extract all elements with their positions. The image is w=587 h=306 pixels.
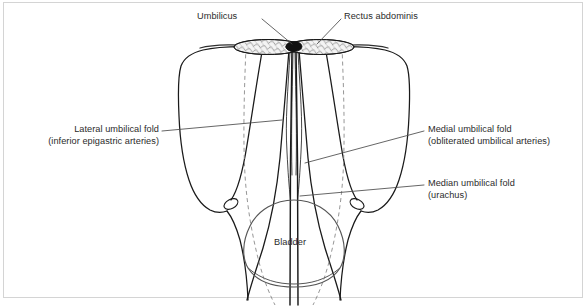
label-medial-umbilical-fold-line2: (obliterated umbilical arteries) xyxy=(428,136,550,148)
label-median-umbilical-fold: Median umbilical fold (urachus) xyxy=(428,178,515,201)
leader-median-umbilical-fold xyxy=(300,185,424,196)
urachus-fibres xyxy=(286,52,301,200)
figure-canvas: Umbilicus Rectus abdominis Lateral umbil… xyxy=(0,0,587,306)
label-median-umbilical-fold-line1: Median umbilical fold xyxy=(428,178,515,188)
deep-inguinal-ring-right xyxy=(348,196,366,211)
dashed-deep-structure-right xyxy=(313,47,344,305)
label-medial-umbilical-fold-line1: Medial umbilical fold xyxy=(428,124,512,134)
label-rectus-abdominis: Rectus abdominis xyxy=(344,11,418,23)
label-umbilicus-line1: Umbilicus xyxy=(197,11,237,21)
umbilicus-marker xyxy=(286,42,302,52)
lateral-umbilical-fold-left xyxy=(231,52,262,200)
label-medial-umbilical-fold: Medial umbilical fold (obliterated umbil… xyxy=(428,124,550,147)
label-bladder: Bladder xyxy=(274,237,306,249)
medial-umbilical-fold-left xyxy=(247,50,289,300)
dashed-deep-structure-left xyxy=(244,47,275,305)
lateral-umbilical-fold-right xyxy=(326,52,357,200)
label-lateral-umbilical-fold-line2: (inferior epigastric arteries) xyxy=(0,136,159,148)
label-median-umbilical-fold-line2: (urachus) xyxy=(428,190,515,202)
label-lateral-umbilical-fold: Lateral umbilical fold (inferior epigast… xyxy=(0,124,159,147)
label-lateral-umbilical-fold-line1: Lateral umbilical fold xyxy=(74,124,159,134)
label-bladder-line1: Bladder xyxy=(274,237,306,247)
median-umbilical-fold xyxy=(290,48,298,305)
label-umbilicus: Umbilicus xyxy=(197,11,237,23)
anatomy-illustration xyxy=(0,0,587,306)
medial-umbilical-fold-right xyxy=(299,50,341,300)
label-rectus-abdominis-line1: Rectus abdominis xyxy=(344,11,418,21)
abdominal-wall-outline xyxy=(178,45,409,213)
deep-inguinal-ring-left xyxy=(222,196,240,211)
